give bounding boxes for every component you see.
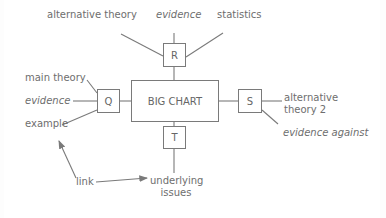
node-s: S	[238, 89, 262, 113]
node-t-label: T	[171, 132, 177, 143]
center-node-big-chart: BIG CHART	[131, 80, 219, 122]
label-link: link	[76, 176, 94, 188]
label-r-statistics: statistics	[217, 9, 262, 21]
label-s-alternative-theory-2: alternative theory 2	[284, 92, 338, 116]
node-q-label: Q	[105, 96, 113, 107]
center-node-label: BIG CHART	[148, 96, 202, 107]
label-s-alt-line1: alternative	[284, 92, 338, 104]
node-s-label: S	[247, 96, 253, 107]
label-q-example: example	[25, 118, 68, 130]
label-t-underlying-issues: underlying issues	[150, 175, 202, 199]
label-t-line1: underlying	[150, 175, 202, 187]
label-t-line2: issues	[150, 187, 202, 199]
node-t: T	[163, 126, 186, 149]
label-s-alt-line2: theory 2	[284, 104, 338, 116]
node-q: Q	[97, 89, 120, 113]
label-s-evidence-against: evidence against	[283, 127, 368, 139]
label-r-alternative-theory: alternative theory	[47, 9, 137, 21]
node-r-label: R	[171, 50, 178, 61]
label-q-evidence: evidence	[25, 95, 70, 107]
label-q-main-theory: main theory	[25, 72, 86, 84]
label-r-evidence: evidence	[156, 9, 201, 21]
node-r: R	[163, 43, 186, 67]
